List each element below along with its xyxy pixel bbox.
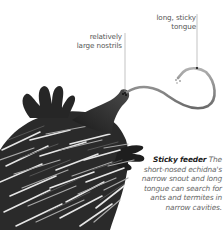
label-nostrils: relatively large nostrils <box>70 32 122 50</box>
label-tongue: long, sticky tongue <box>146 13 196 31</box>
nostril <box>125 94 127 96</box>
tongue-tip <box>175 77 181 84</box>
echidna-tongue <box>127 68 215 108</box>
label-tongue-line-2: tongue <box>146 22 196 31</box>
label-nostrils-line-2: large nostrils <box>70 41 122 50</box>
nostril <box>122 93 124 95</box>
leader-dot-nostrils <box>124 92 126 94</box>
figure-caption: Sticky feeder The short-nosed echidna's … <box>136 155 222 213</box>
label-tongue-line-1: long, sticky <box>146 13 196 22</box>
caption-title: Sticky feeder <box>153 155 209 164</box>
leader-dot-tongue <box>196 67 198 69</box>
label-nostrils-line-1: relatively <box>70 32 122 41</box>
